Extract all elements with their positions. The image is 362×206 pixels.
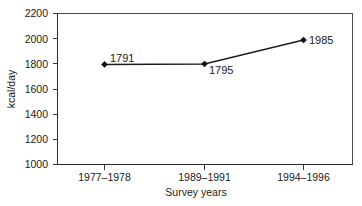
x-tick-label-0: 1977–1978 [78, 171, 131, 183]
line-chart: 2200 2000 1800 1600 1400 1200 1000 1977–… [0, 0, 362, 206]
y-tick-label-2200: 2200 [25, 7, 49, 19]
y-tick-label-1600: 1600 [25, 83, 49, 95]
chart-canvas: 2200 2000 1800 1600 1400 1200 1000 1977–… [0, 0, 362, 206]
x-axis-title: Survey years [165, 186, 226, 198]
data-point-label-2: 1985 [309, 34, 333, 46]
x-tick-label-1: 1989–1991 [178, 171, 231, 183]
y-tick-label-1000: 1000 [25, 158, 49, 170]
data-point-label-0: 1791 [110, 52, 134, 64]
y-tick-label-1800: 1800 [25, 58, 49, 70]
y-tick-label-1200: 1200 [25, 133, 49, 145]
y-tick-label-1400: 1400 [25, 108, 49, 120]
data-point-marker-1 [202, 61, 208, 67]
data-point-marker-0 [102, 61, 108, 67]
data-point-label-1: 1795 [209, 64, 233, 76]
data-point-marker-2 [301, 37, 307, 43]
y-tick-label-2000: 2000 [25, 33, 49, 45]
y-axis-title: kcal/day [5, 69, 17, 108]
x-tick-label-2: 1994–1996 [277, 171, 330, 183]
